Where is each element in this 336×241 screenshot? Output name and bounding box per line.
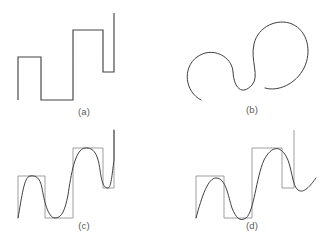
panel-a-plot bbox=[0, 0, 168, 122]
panel-b-label: (b) bbox=[168, 104, 336, 115]
panel-a-label: (a) bbox=[0, 106, 168, 117]
panel-a bbox=[0, 0, 168, 122]
square-wave-outline-d bbox=[196, 130, 294, 218]
smooth-loop-curve bbox=[187, 22, 308, 100]
figure-container: (a) (b) (c) (d) bbox=[0, 0, 336, 241]
panel-d-label: (d) bbox=[168, 220, 336, 231]
panel-c-label: (c) bbox=[0, 220, 168, 231]
staircase-square-wave bbox=[18, 13, 114, 100]
fourier-approximation-curve-c bbox=[18, 130, 114, 218]
sinusoidal-approximation-curve-d bbox=[196, 149, 316, 220]
